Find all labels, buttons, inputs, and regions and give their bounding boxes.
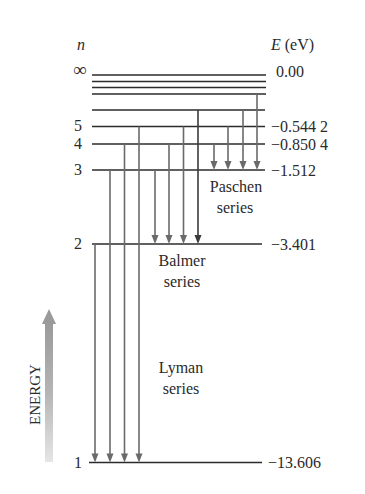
arrow-down-icon	[121, 454, 128, 463]
energy-unit: (eV)	[281, 36, 314, 54]
arrow-down-icon	[92, 454, 99, 463]
arrow-down-icon	[254, 161, 261, 170]
arrow-down-icon	[240, 161, 247, 170]
energy-value-2: −3.401	[271, 236, 316, 253]
arrow-up-icon	[42, 309, 56, 324]
transition-paschen-6-to-3	[240, 110, 247, 170]
energy-symbol: E	[270, 36, 281, 53]
balmer-label-line2: series	[164, 273, 200, 290]
lyman-label-line1: Lyman	[159, 359, 203, 377]
arrow-down-icon	[136, 454, 143, 463]
level-label-4: 4	[74, 135, 82, 152]
arrow-down-icon	[180, 235, 187, 244]
transition-lyman-4-to-1	[121, 144, 128, 463]
transition-lyman-3-to-1	[107, 170, 114, 463]
energy-value-5: −0.544 2	[271, 118, 328, 135]
transition-paschen-5-to-3	[225, 127, 232, 171]
arrow-down-icon	[107, 454, 114, 463]
energy-arrow-label: ENERGY	[27, 364, 43, 425]
energy-value-3: −1.512	[271, 162, 316, 179]
level-label-2: 2	[74, 235, 82, 252]
paschen-label-line2: series	[217, 199, 253, 216]
energy-arrow-shaft	[45, 322, 53, 462]
arrow-down-icon	[152, 235, 159, 244]
level-label-5: 5	[74, 117, 82, 134]
energy-level-diagram: n E (eV) ∞ 5 4 3 2 1 0.00 −0.544 2 −0.85…	[0, 0, 365, 494]
arrow-down-icon	[166, 235, 173, 244]
transition-balmer-6-to-2	[195, 110, 202, 244]
energy-value-1: −13.606	[268, 454, 321, 471]
energy-axis-label: E (eV)	[270, 36, 314, 54]
transition-lyman-5-to-1	[136, 127, 143, 463]
transition-paschen-7-to-3	[254, 94, 261, 170]
transition-lyman-2-to-1	[92, 244, 99, 463]
transition-paschen-4-to-3	[211, 144, 218, 170]
lyman-label-line2: series	[163, 380, 199, 397]
energy-value-4: −0.850 4	[271, 136, 328, 153]
arrow-down-icon	[211, 161, 218, 170]
level-label-3: 3	[74, 161, 82, 178]
level-label-infinity: ∞	[73, 59, 87, 80]
arrow-down-icon	[225, 161, 232, 170]
level-label-1: 1	[74, 454, 82, 471]
transition-balmer-4-to-2	[166, 144, 173, 244]
energy-arrow	[42, 309, 56, 462]
n-axis-label: n	[77, 36, 85, 53]
transition-balmer-3-to-2	[152, 170, 159, 244]
paschen-label-line1: Paschen	[210, 178, 262, 195]
energy-value-infinity: 0.00	[276, 63, 304, 80]
arrow-down-icon	[195, 235, 202, 244]
balmer-label-line1: Balmer	[158, 252, 206, 269]
